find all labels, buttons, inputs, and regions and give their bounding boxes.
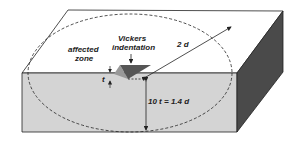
front-face (22, 73, 237, 132)
depth-label: 10 t = 1.4 d (148, 97, 189, 106)
affected-label-2: zone (75, 54, 93, 63)
thickness-label: t (102, 75, 105, 84)
block-drawing (0, 0, 302, 142)
vickers-label-1: Vickers (118, 34, 146, 43)
vickers-indentation-diagram: Vickers indentation affected zone 2 d t … (0, 0, 302, 142)
radius-label: 2 d (177, 40, 189, 49)
affected-label-1: affected (68, 45, 99, 54)
vickers-label-2: indentation (112, 43, 155, 52)
